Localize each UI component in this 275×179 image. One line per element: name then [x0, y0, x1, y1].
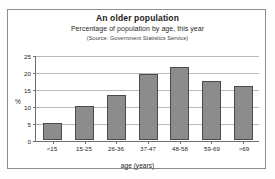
y-axis-tick-label: 10	[24, 104, 31, 111]
x-axis-tick-label: 59-69	[196, 145, 228, 152]
chart-subtitle: Percentage of population by age, this ye…	[8, 24, 267, 34]
y-axis-tick	[33, 56, 36, 57]
title-block: An older population Percentage of popula…	[8, 13, 267, 43]
plot-area: 2520151050	[35, 56, 259, 142]
x-axis-tick	[116, 141, 117, 144]
y-axis-tick-label: 20	[24, 70, 31, 77]
x-axis-tick	[148, 141, 149, 144]
chart-title: An older population	[8, 13, 267, 24]
bar[interactable]	[202, 81, 221, 141]
bar-slot	[37, 56, 69, 140]
x-axis-tick	[53, 141, 54, 144]
x-axis-tick-label: >69	[228, 145, 260, 152]
y-axis-tick-label: 15	[24, 87, 31, 94]
bar-slot	[69, 56, 101, 140]
chart-source-note: (Source: Government Statistics Service)	[8, 34, 267, 43]
y-axis-tick	[33, 124, 36, 125]
bar[interactable]	[139, 74, 158, 140]
bar-slot	[227, 56, 259, 140]
x-axis-tick-label: 37-47	[132, 145, 164, 152]
y-axis-tick-label: 25	[24, 53, 31, 60]
chart-screenshot: An older population Percentage of popula…	[0, 0, 275, 179]
bar[interactable]	[170, 67, 189, 140]
x-axis-tick	[211, 141, 212, 144]
x-axis-tick	[180, 141, 181, 144]
bar[interactable]	[234, 86, 253, 140]
chart-frame: An older population Percentage of popula…	[7, 9, 266, 169]
y-axis-tick-label: 5	[28, 121, 31, 128]
bar-slot	[100, 56, 132, 140]
x-axis-tick-label: 15-25	[68, 145, 100, 152]
y-axis-tick	[33, 73, 36, 74]
y-axis-tick	[33, 141, 36, 142]
y-axis-title: %	[15, 98, 21, 105]
x-axis-tick-label: 48-58	[164, 145, 196, 152]
bar[interactable]	[43, 123, 62, 140]
bar-slot	[164, 56, 196, 140]
y-axis-tick	[33, 107, 36, 108]
y-axis-tick-label: 0	[28, 138, 31, 145]
x-axis-tick	[243, 141, 244, 144]
x-axis-title: age (years)	[8, 162, 267, 169]
bar-slot	[196, 56, 228, 140]
x-axis-tick	[85, 141, 86, 144]
bar[interactable]	[75, 106, 94, 140]
bar[interactable]	[107, 95, 126, 140]
y-axis-tick	[33, 90, 36, 91]
x-axis-tick-label: 26-36	[100, 145, 132, 152]
bar-series	[37, 56, 259, 140]
x-axis-tick-label: <15	[36, 145, 68, 152]
bar-slot	[132, 56, 164, 140]
plot-area-wrapper: 2520151050	[35, 56, 259, 142]
x-axis-tick-labels: <1515-2526-3637-4748-5859-69>69	[36, 145, 260, 152]
